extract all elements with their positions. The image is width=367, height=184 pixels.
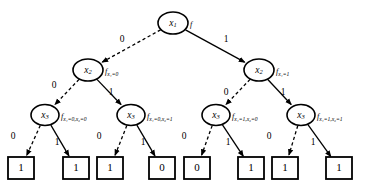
edge-label: 1 bbox=[109, 87, 114, 97]
node-function-label: fx₁=0 bbox=[105, 67, 118, 77]
tree-node-x1[interactable]: x1f bbox=[158, 12, 194, 34]
tree-edge-1 bbox=[185, 30, 244, 62]
tree-node-x3[interactable]: x3fx₁=1,x₂=0 bbox=[202, 105, 258, 126]
node-layer: x1fx2fx₁=0x2fx₁=1x3fx₁=0,x₂=0x3fx₁=0,x₂=… bbox=[31, 12, 343, 126]
decision-tree-diagram: 01010101010101 x1fx2fx₁=0x2fx₁=1x3fx₁=0,… bbox=[0, 0, 367, 184]
tree-edge-0 bbox=[202, 126, 213, 155]
tree-edge-1 bbox=[51, 125, 69, 156]
edge-label: 0 bbox=[97, 131, 102, 141]
leaf-value: 1 bbox=[336, 161, 342, 173]
edge-label: 0 bbox=[120, 34, 125, 44]
leaf-value: 1 bbox=[282, 161, 288, 173]
tree-edge-0 bbox=[55, 79, 79, 104]
tree-leaf[interactable]: 1 bbox=[97, 157, 123, 179]
tree-edge-1 bbox=[268, 79, 291, 104]
node-function-label: fx₁=1,x₂=0 bbox=[232, 112, 258, 122]
leaf-value: 1 bbox=[73, 161, 79, 173]
tree-node-x2[interactable]: x2fx₁=0 bbox=[73, 59, 118, 81]
tree-leaf[interactable]: 1 bbox=[63, 157, 89, 179]
node-function-label: fx₁=0,x₂=1 bbox=[147, 112, 173, 122]
tree-edge-0 bbox=[115, 126, 127, 156]
tree-edge-0 bbox=[226, 79, 250, 104]
tree-leaf[interactable]: 0 bbox=[184, 157, 210, 179]
tree-node-x3[interactable]: x3fx₁=0,x₂=1 bbox=[117, 105, 173, 126]
tree-leaf[interactable]: 1 bbox=[8, 157, 34, 179]
tree-canvas: 01010101010101 x1fx2fx₁=0x2fx₁=1x3fx₁=0,… bbox=[0, 0, 367, 184]
edge-label: 1 bbox=[224, 34, 229, 44]
tree-edge-0 bbox=[102, 30, 160, 62]
leaf-value: 1 bbox=[248, 161, 254, 173]
node-function-label: fx₁=1,x₂=1 bbox=[317, 112, 343, 122]
tree-leaf[interactable]: 0 bbox=[149, 157, 175, 179]
node-function-label: fx₁=0,x₂=0 bbox=[61, 112, 87, 122]
leaf-layer: 11100111 bbox=[8, 157, 352, 179]
node-function-label: f bbox=[190, 20, 194, 29]
tree-node-x3[interactable]: x3fx₁=1,x₂=1 bbox=[287, 105, 343, 126]
edge-label: 0 bbox=[52, 80, 57, 90]
tree-edge-0 bbox=[289, 126, 298, 155]
edge-label: 0 bbox=[182, 131, 187, 141]
edge-label: 1 bbox=[226, 137, 231, 147]
edge-label: 1 bbox=[141, 137, 146, 147]
tree-node-x3[interactable]: x3fx₁=0,x₂=0 bbox=[31, 105, 87, 126]
tree-edge-0 bbox=[27, 125, 41, 155]
leaf-value: 0 bbox=[159, 161, 165, 173]
tree-leaf[interactable]: 1 bbox=[238, 157, 264, 179]
leaf-value: 1 bbox=[18, 161, 24, 173]
edge-label: 1 bbox=[281, 87, 286, 97]
tree-node-x2[interactable]: x2fx₁=1 bbox=[244, 59, 289, 81]
edge-label: 0 bbox=[224, 87, 229, 97]
edge-label: 1 bbox=[311, 137, 316, 147]
tree-leaf[interactable]: 1 bbox=[326, 157, 352, 179]
edge-label-layer: 01010101010101 bbox=[11, 34, 316, 147]
leaf-value: 1 bbox=[107, 161, 113, 173]
edge-label: 1 bbox=[55, 137, 60, 147]
leaf-value: 0 bbox=[194, 161, 200, 173]
edge-label: 0 bbox=[11, 131, 16, 141]
edge-label: 0 bbox=[267, 131, 272, 141]
tree-edge-1 bbox=[137, 125, 155, 156]
node-function-label: fx₁=1 bbox=[276, 67, 289, 77]
tree-leaf[interactable]: 1 bbox=[272, 157, 298, 179]
